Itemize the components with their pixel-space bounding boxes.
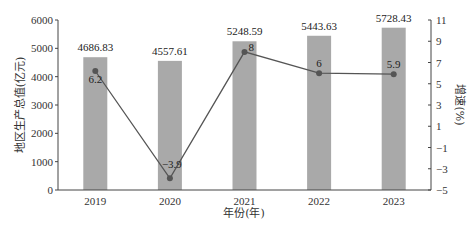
y-right-tick-label: −5: [436, 184, 448, 196]
y-right-tick-label: −1: [436, 142, 448, 154]
y-left-tick-label: 4000: [31, 71, 54, 83]
x-tick-label: 2021: [234, 195, 256, 207]
y-right-tick-label: 5: [436, 78, 442, 90]
y-right-tick-label: 7: [436, 57, 442, 69]
bar: [382, 28, 406, 190]
bar-value-label: 5248.59: [227, 25, 263, 37]
bar: [233, 41, 257, 190]
y-left-tick-label: 3000: [31, 99, 54, 111]
line-value-label: 8: [249, 41, 255, 53]
chart: 0100020003000400050006000−5−3−1135791120…: [0, 0, 475, 235]
y-left-tick-label: 0: [48, 184, 54, 196]
y-right-tick-label: 9: [436, 35, 442, 47]
y-right-tick-label: 11: [436, 14, 447, 26]
line-value-label: 6: [316, 57, 322, 69]
bar-value-label: 5443.63: [301, 20, 337, 32]
y-left-tick-label: 1000: [31, 156, 54, 168]
line-point: [167, 175, 173, 181]
bar: [158, 61, 182, 190]
y-left-axis-title: 地区生产总值(亿元): [13, 57, 27, 154]
bar-value-label: 5728.43: [376, 12, 412, 24]
x-axis-title: 年份(年): [223, 206, 265, 220]
y-right-tick-label: −3: [436, 163, 448, 175]
y-left-tick-label: 5000: [31, 42, 54, 54]
line-point: [391, 71, 397, 77]
y-left-tick-label: 2000: [31, 127, 54, 139]
bar-value-label: 4686.83: [77, 41, 113, 53]
line-value-label: 6.2: [88, 73, 102, 85]
line-value-label: −3.9: [162, 158, 182, 170]
y-left-tick-label: 6000: [31, 14, 54, 26]
x-tick-label: 2023: [383, 195, 406, 207]
line-value-label: 5.9: [387, 58, 401, 70]
line-point: [242, 49, 248, 55]
y-right-axis-title: 增速(%): [453, 84, 467, 125]
y-right-tick-label: 3: [436, 99, 442, 111]
x-tick-label: 2019: [84, 195, 107, 207]
x-tick-label: 2020: [159, 195, 182, 207]
y-right-tick-label: 1: [436, 120, 442, 132]
bar-value-label: 4557.61: [152, 45, 188, 57]
x-tick-label: 2022: [308, 195, 330, 207]
line-point: [316, 70, 322, 76]
